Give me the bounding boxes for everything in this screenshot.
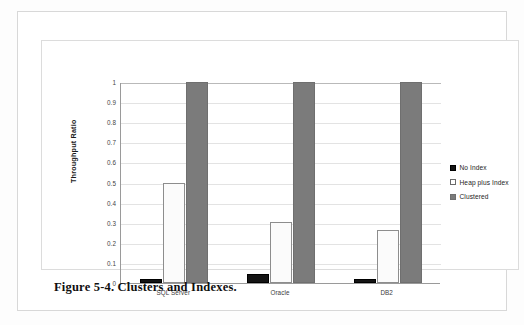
y-axis-tick-label: 0.2 [90,241,116,247]
legend-swatch-icon [450,179,456,185]
figure-caption: Figure 5-4. Clusters and Indexes. [54,280,237,295]
bar [400,82,422,283]
bar [163,183,185,284]
legend-label: No Index [460,164,487,171]
y-axis-title: Throughput Ratio [69,120,78,183]
y-axis-tick-label: 0.6 [90,160,116,166]
legend-swatch-icon [450,194,456,200]
legend-item: Heap plus Index [450,178,524,187]
bar-group [228,82,335,283]
chart-legend: No IndexHeap plus IndexClustered [450,163,524,207]
y-axis-tick-label: 0.3 [90,221,116,227]
legend-label: Heap plus Index [460,179,509,186]
bar-group [334,82,441,283]
y-axis-tick-label: 0.8 [90,120,116,126]
bar [270,222,292,283]
bar [377,230,399,283]
legend-swatch-icon [450,165,456,171]
bar [186,82,208,283]
y-axis-tick-label: 0.5 [90,180,116,186]
page-border: Throughput Ratio 00.10.20.30.40.50.60.70… [17,11,507,311]
y-axis-tick-label: 1 [90,80,116,86]
plot-area [120,83,440,284]
x-axis-tick-label: Oracle [227,289,334,296]
y-axis-tick-label: 0.7 [90,140,116,146]
scanned-page: Throughput Ratio 00.10.20.30.40.50.60.70… [0,0,524,325]
y-axis-tick-label: 0.9 [90,100,116,106]
y-axis-tick-labels: 00.10.20.30.40.50.60.70.80.91 [88,83,116,284]
bar [247,274,269,283]
legend-label: Clustered [460,193,489,200]
legend-item: Clustered [450,192,524,201]
legend-item: No Index [450,163,524,172]
bar-group [121,82,228,283]
y-axis-tick-label: 0.4 [90,200,116,206]
chart-container: Throughput Ratio 00.10.20.30.40.50.60.70… [41,40,519,270]
y-axis-tick-label: 0.1 [90,261,116,267]
x-axis-tick-label: DB2 [333,289,440,296]
bar [354,279,376,283]
bar [293,82,315,283]
